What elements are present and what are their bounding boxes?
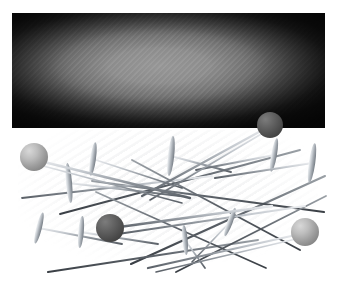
image-canvas <box>0 0 337 293</box>
pin-group <box>0 0 337 293</box>
